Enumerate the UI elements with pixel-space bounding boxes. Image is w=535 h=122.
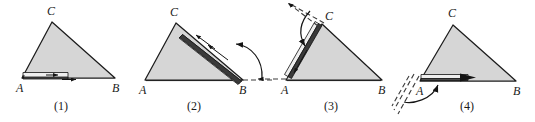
- straightedge-4: [421, 74, 476, 82]
- vertex-label-a-3: A: [280, 83, 289, 97]
- dashed-ray-3: [288, 3, 324, 26]
- panel-4: A B C (4): [392, 6, 521, 114]
- vertex-label-a-4: A: [415, 84, 424, 98]
- vertex-label-b-3: B: [378, 83, 386, 97]
- vertex-label-a-1: A: [15, 81, 24, 95]
- dashed-rays-4: [392, 74, 419, 114]
- panel-caption-3: (3): [324, 99, 338, 113]
- vertex-label-b-4: B: [513, 84, 521, 98]
- panel-caption-1: (1): [54, 99, 68, 113]
- panel-2: A B C (2): [138, 5, 275, 113]
- vertex-label-a-2: A: [138, 83, 147, 97]
- vertex-label-b-2: B: [239, 83, 247, 97]
- geometry-figure: A B C (1) A B C: [0, 0, 535, 122]
- panel-caption-2: (2): [187, 99, 201, 113]
- straightedge-1: [23, 73, 68, 80]
- panel-1: A B C (1): [15, 4, 120, 113]
- figure-container: A B C (1) A B C: [0, 0, 535, 122]
- vertex-label-b-1: B: [112, 81, 120, 95]
- panel-caption-4: (4): [460, 99, 474, 113]
- rotation-arc-2: [236, 44, 262, 78]
- triangle-1: [22, 22, 115, 78]
- vertex-label-c-2: C: [170, 5, 179, 19]
- vertex-label-c-3: C: [325, 9, 334, 23]
- panel-3: A B C (3): [258, 3, 386, 113]
- vertex-label-c-1: C: [47, 4, 56, 18]
- vertex-label-c-4: C: [448, 6, 457, 20]
- triangle-4: [420, 25, 516, 81]
